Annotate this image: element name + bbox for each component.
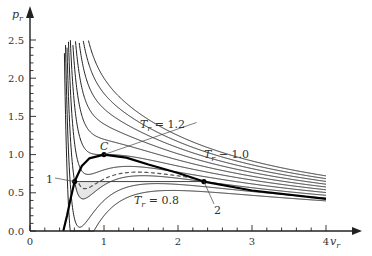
- point-2: [201, 179, 206, 184]
- isotherm-curves: [55, 40, 326, 231]
- isotherm-1.1: [76, 41, 326, 184]
- y-tick-label: 1.5: [8, 111, 24, 122]
- y-tick-label: 1.0: [8, 149, 24, 160]
- x-tick-label: 4: [323, 236, 329, 247]
- y-tick-label: 0.0: [8, 226, 24, 237]
- leader-point-2: [204, 182, 214, 204]
- label-tr-1.2: Tr = 1.2: [140, 118, 185, 133]
- annotations: Tr = 1.2 Tr − 1.0 Tr = 0.8 C 1 2 vr pr: [12, 8, 341, 250]
- y-axis-label: pr: [12, 8, 24, 23]
- y-axis-arrow-icon: [26, 6, 34, 18]
- x-tick-label: 1: [101, 236, 107, 247]
- y-tick-label: 2.5: [8, 35, 24, 46]
- leader-point-1: [55, 178, 75, 182]
- label-point-2: 2: [214, 204, 221, 217]
- isotherm-0.85: [66, 45, 326, 227]
- label-point-1: 1: [46, 173, 53, 186]
- label-critical-point: C: [100, 140, 109, 153]
- pv-isotherm-chart: 012340.00.51.01.52.02.5 Tr = 1.2 Tr − 1.…: [0, 0, 372, 256]
- isotherm-1: [70, 40, 326, 190]
- y-tick-label: 2.0: [8, 73, 24, 84]
- coexistence-curve: [63, 155, 326, 231]
- y-tick-label: 0.5: [8, 187, 24, 198]
- isotherm-0.9: [67, 48, 326, 199]
- label-tr-1.0: Tr − 1.0: [204, 148, 249, 163]
- isotherm-1.05: [73, 45, 326, 187]
- x-axis-arrow-icon: [352, 227, 362, 235]
- x-axis-label: vr: [330, 235, 341, 250]
- x-tick-label: 0: [27, 236, 33, 247]
- x-tick-label: 3: [249, 236, 255, 247]
- label-tr-0.8: Tr = 0.8: [134, 194, 179, 209]
- x-tick-label: 2: [175, 236, 181, 247]
